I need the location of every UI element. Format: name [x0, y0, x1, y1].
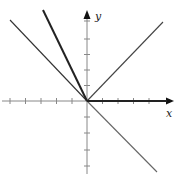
x-axis-label: x [166, 107, 173, 120]
line-slope-neg1-right [87, 101, 157, 172]
line-slope-1-right [87, 22, 163, 101]
y-axis-arrow-icon [84, 10, 91, 19]
x-axis-arrow-icon [166, 98, 174, 105]
steep-line-left [43, 10, 87, 101]
line-slope-neg1-left [10, 20, 87, 101]
y-axis-label: y [94, 10, 102, 23]
coordinate-plane-figure: y x [0, 0, 175, 175]
